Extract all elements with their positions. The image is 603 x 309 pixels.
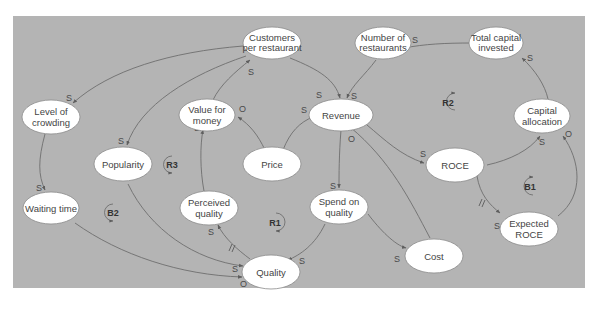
edge-roce-expected <box>477 176 500 213</box>
node-label: quality <box>325 207 353 218</box>
pol-revenue-roce: S <box>420 149 426 159</box>
pol-expected-alloc: O <box>565 129 572 139</box>
edge-spend-quality <box>288 224 325 260</box>
node-label: Quality <box>256 267 286 278</box>
loop-r3: R3 <box>164 156 178 173</box>
pol-price-revenue: S <box>301 105 307 115</box>
edge-customers-crowding <box>73 46 243 103</box>
edge-waiting-quality <box>75 223 242 277</box>
node-label: Expected <box>509 218 549 229</box>
node-label: restaurants <box>359 42 407 53</box>
pol-value-customers: S <box>248 67 254 77</box>
node-label: Cost <box>424 251 444 262</box>
pol-capital-restaurants: S <box>412 35 418 45</box>
pol-revenue-spend: S <box>330 181 336 191</box>
pol-alloc-capital: S <box>527 53 533 63</box>
pol-customers-revenue: S <box>316 90 322 100</box>
edge-alloc-capital <box>522 58 548 99</box>
delay-mark-roce-expected <box>479 199 485 207</box>
pol-spend-quality: S <box>299 256 305 266</box>
node-label: ROCE <box>515 229 542 240</box>
node-value-for-money[interactable]: Value for money <box>179 99 235 131</box>
pol-crowding-waiting: S <box>36 183 42 193</box>
node-label: allocation <box>522 116 562 127</box>
edge-price-revenue <box>283 117 313 150</box>
loop-b2: B2 <box>105 204 119 221</box>
pol-customers-crowding: S <box>66 93 72 103</box>
node-label: ROCE <box>441 160 468 171</box>
loop-label-b1: B1 <box>524 182 536 192</box>
nodes: Customers per restaurant Number of resta… <box>22 27 570 289</box>
node-label: quality <box>195 208 223 219</box>
loop-label-r1: R1 <box>269 218 281 228</box>
edge-revenue-roce <box>367 125 424 163</box>
edge-customers-revenue <box>290 58 340 98</box>
node-label: invested <box>478 42 513 53</box>
node-label: Capital <box>527 105 557 116</box>
node-total-capital-invested[interactable]: Total capital invested <box>469 27 523 59</box>
node-spend-on-quality[interactable]: Spend on quality <box>310 190 368 224</box>
node-revenue[interactable]: Revenue <box>309 99 373 131</box>
loop-r1: R1 <box>269 213 285 231</box>
node-expected-roce[interactable]: Expected ROCE <box>500 212 558 246</box>
pol-quality-perceived: S <box>208 227 214 237</box>
node-quality[interactable]: Quality <box>242 255 300 289</box>
causal-loop-diagram: S S S S O S S S S S O S S S O S O S S S … <box>0 0 603 309</box>
node-capital-allocation[interactable]: Capital allocation <box>514 99 570 133</box>
edge-spend-cost <box>368 214 406 248</box>
node-label: Popularity <box>102 159 144 170</box>
loop-r2: R2 <box>442 93 455 110</box>
node-customers-per-restaurant[interactable]: Customers per restaurant <box>242 27 302 59</box>
node-label: Level of <box>34 106 68 117</box>
node-label: crowding <box>32 117 70 128</box>
edge-customers-popularity <box>127 56 246 145</box>
loop-b1: B1 <box>524 177 536 195</box>
node-level-of-crowding[interactable]: Level of crowding <box>22 100 80 134</box>
pol-spend-cost: S <box>394 254 400 264</box>
node-label: per restaurant <box>242 42 302 53</box>
node-cost[interactable]: Cost <box>405 239 463 273</box>
pol-cost-revenue: O <box>348 134 355 144</box>
node-roce[interactable]: ROCE <box>426 148 484 182</box>
node-label: Perceived <box>188 197 230 208</box>
node-label: Waiting time <box>25 203 77 214</box>
loop-label-r3: R3 <box>166 160 178 170</box>
edge-crowding-waiting <box>40 134 45 190</box>
node-waiting-time[interactable]: Waiting time <box>23 192 79 224</box>
pol-roce-alloc: S <box>539 137 545 147</box>
pol-price-value: O <box>239 104 246 114</box>
edge-perceived-value <box>201 130 204 191</box>
edge-price-value <box>238 117 265 150</box>
pol-roce-expected: S <box>494 221 500 231</box>
node-perceived-quality[interactable]: Perceived quality <box>180 191 238 225</box>
edge-roce-alloc <box>487 136 540 165</box>
loop-label-r2: R2 <box>442 98 454 108</box>
edge-quality-perceived <box>218 225 250 259</box>
node-price[interactable]: Price <box>243 147 301 181</box>
node-label: money <box>193 115 222 126</box>
node-label: Price <box>261 159 283 170</box>
edge-revenue-spend <box>339 130 341 188</box>
node-label: Spend on <box>319 196 360 207</box>
node-label: Revenue <box>322 110 360 121</box>
node-number-of-restaurants[interactable]: Number of restaurants <box>355 27 411 59</box>
pol-popularity-quality: S <box>232 264 238 274</box>
loop-label-b2: B2 <box>107 208 119 218</box>
edge-expected-alloc <box>558 136 577 216</box>
node-popularity[interactable]: Popularity <box>94 147 152 181</box>
node-label: Value for <box>188 104 225 115</box>
pol-customers-popularity: S <box>118 136 124 146</box>
